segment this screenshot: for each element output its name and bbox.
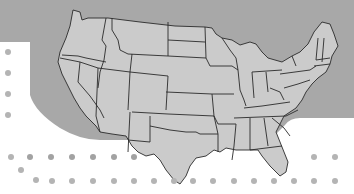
map-illustration [0, 0, 354, 194]
decorative-dot [5, 70, 11, 76]
decorative-dot [332, 154, 338, 160]
decorative-dot [151, 178, 157, 184]
decorative-dot [5, 49, 11, 55]
decorative-dot [131, 154, 137, 160]
decorative-dot [90, 178, 96, 184]
decorative-dot [8, 154, 14, 160]
decorative-dot [5, 112, 11, 118]
us-outline [58, 10, 338, 184]
decorative-dot [251, 178, 257, 184]
decorative-dot [111, 178, 117, 184]
decorative-dot [131, 178, 137, 184]
decorative-dot [332, 178, 338, 184]
decorative-dot [231, 178, 237, 184]
decorative-dot [49, 178, 55, 184]
decorative-dot [171, 178, 177, 184]
decorative-dot [69, 178, 75, 184]
decorative-dot [111, 154, 117, 160]
decorative-dot [5, 91, 11, 97]
decorative-dot [271, 178, 277, 184]
decorative-dot [291, 178, 297, 184]
decorative-dot [27, 154, 33, 160]
decorative-dot [90, 154, 96, 160]
decorative-dot [18, 167, 24, 173]
decorative-dot [311, 154, 317, 160]
us-states-map [0, 0, 354, 194]
decorative-dot [69, 154, 75, 160]
decorative-dot [48, 154, 54, 160]
decorative-dot [311, 178, 317, 184]
decorative-dot [190, 178, 196, 184]
decorative-dot [210, 178, 216, 184]
decorative-dot [33, 177, 39, 183]
